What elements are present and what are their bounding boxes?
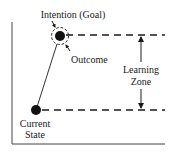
current-state-label-line1: Current bbox=[20, 118, 51, 129]
outcome-pointer-arrow-icon bbox=[66, 45, 70, 51]
learning-zone-label-line1: Learning bbox=[123, 64, 159, 75]
current-state-label-line2: State bbox=[25, 129, 46, 140]
learning-zone-diagram: Intention (Goal) Outcome Learning Zone C… bbox=[0, 0, 175, 152]
goal-pointer-arrow-icon bbox=[52, 21, 55, 27]
goal-dot bbox=[55, 31, 65, 41]
current-state-dot bbox=[31, 105, 41, 115]
goal-label: Intention (Goal) bbox=[41, 9, 106, 21]
outcome-label: Outcome bbox=[71, 54, 108, 65]
progress-line bbox=[37, 44, 57, 107]
learning-zone-label-line2: Zone bbox=[131, 76, 152, 87]
